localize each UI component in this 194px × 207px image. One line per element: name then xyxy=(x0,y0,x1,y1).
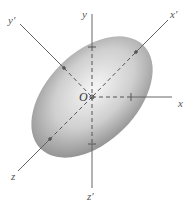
origin-label: O xyxy=(79,90,88,104)
y-prime-axis-outer xyxy=(20,24,64,68)
z-axis-label: z xyxy=(10,170,16,182)
x-prime-axis-label: x′ xyxy=(169,8,178,20)
z-axis-outer xyxy=(18,139,50,171)
y-prime-axis-label: y′ xyxy=(7,14,16,26)
y-axis-label: y xyxy=(81,8,87,20)
x-axis-label: x xyxy=(177,97,183,109)
x-prime-axis-outer xyxy=(135,20,168,53)
z-prime-axis-label: z′ xyxy=(86,190,94,202)
ellipsoid-diagram: y x z z′ y′ x′ O xyxy=(0,0,194,207)
